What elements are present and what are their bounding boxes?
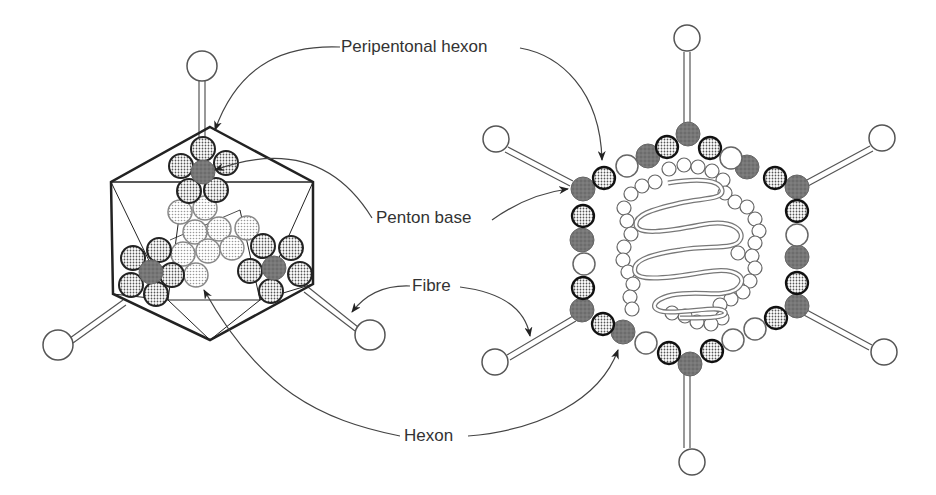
leader-penton-right [492, 189, 568, 220]
penton-base-icon [262, 256, 286, 280]
fibre-knob-icon [482, 349, 508, 375]
vertex-cluster-right [238, 234, 312, 303]
left-virion [43, 51, 385, 360]
fibre-knob-icon [869, 125, 895, 151]
label-peripentonal-hexon: Peripentonal hexon [340, 37, 489, 57]
penton-base-icon [191, 160, 215, 184]
right-virion [482, 25, 897, 475]
leader-fibre-left [352, 286, 410, 312]
fibre-knob-icon [674, 25, 700, 51]
label-fibre: Fibre [411, 276, 452, 296]
leader-peripentonal-left [215, 47, 340, 130]
vertex-cluster-top [169, 137, 238, 203]
fibre-knob-icon [187, 51, 217, 81]
adenovirus-diagram [0, 0, 936, 495]
penton-base-icon [139, 260, 163, 284]
leader-hexon-left [204, 290, 400, 436]
fibre-knob-icon [355, 320, 385, 350]
leader-fibre-right [460, 287, 530, 336]
fibre-knob-icon [483, 126, 509, 152]
leader-penton-left [215, 158, 372, 218]
fibre-knob-icon [43, 330, 73, 360]
fibre-knob-icon [871, 339, 897, 365]
label-hexon: Hexon [403, 426, 454, 446]
fibre-knob-icon [679, 449, 705, 475]
label-penton-base: Penton base [375, 208, 472, 228]
leader-peripentonal-right [520, 48, 602, 160]
core-proteins [616, 158, 766, 331]
